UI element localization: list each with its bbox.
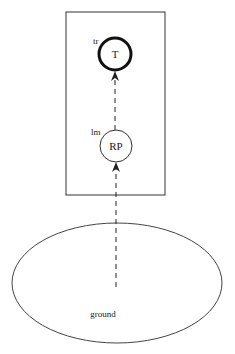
diagram-canvas: T tr RP lm ground: [0, 0, 235, 354]
node-rp-label: RP: [109, 140, 122, 152]
arrowhead-icon: [112, 162, 120, 172]
arrowhead-icon: [111, 71, 119, 81]
node-t-label: T: [112, 48, 119, 60]
node-t-tag: tr: [93, 36, 99, 46]
node-ground-label: ground: [90, 309, 116, 319]
node-rp-tag: lm: [91, 127, 101, 137]
ground-ellipse: [12, 223, 222, 343]
